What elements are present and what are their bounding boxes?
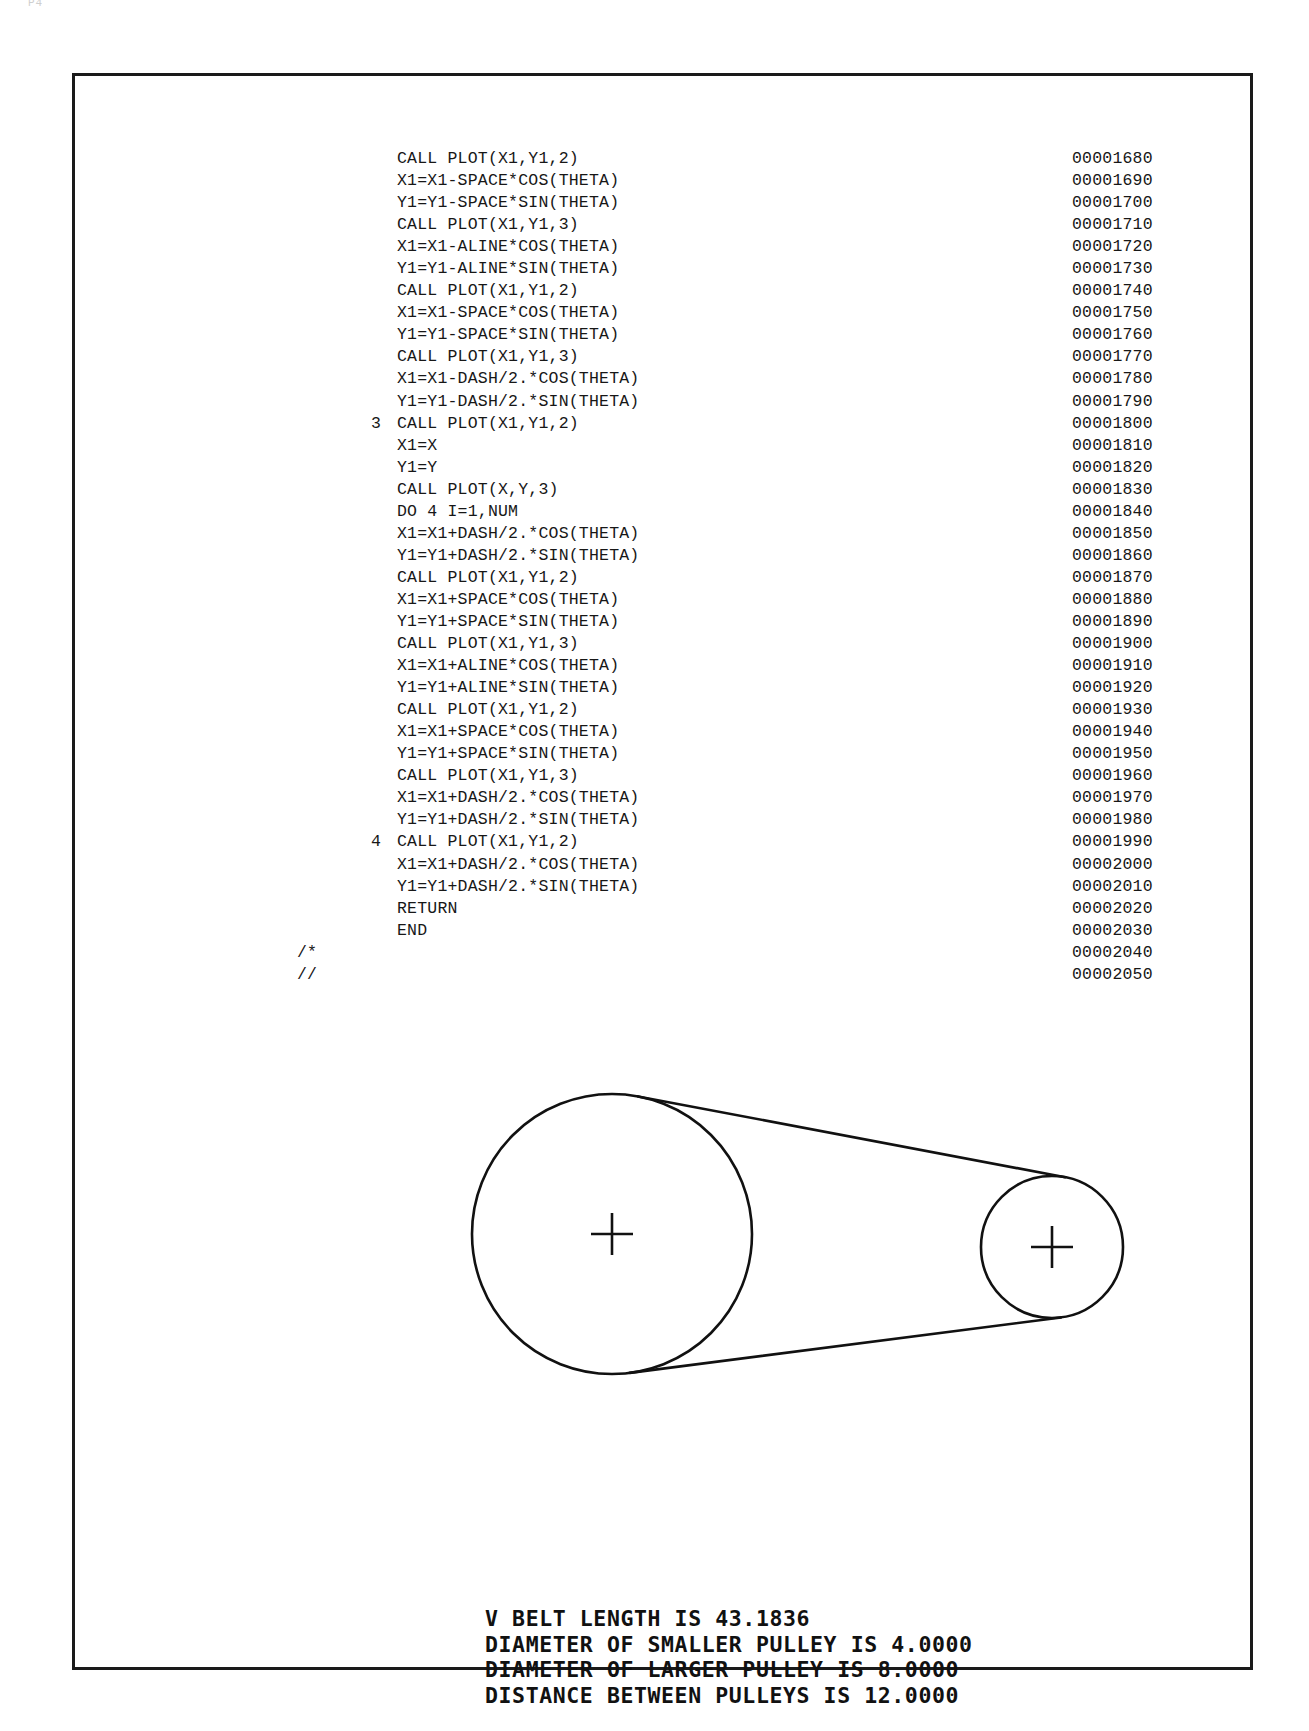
code-statement: Y1=Y1-ALINE*SIN(THETA) (397, 258, 619, 280)
code-statement: X1=X (397, 435, 437, 457)
code-line: X1=X1+DASH/2.*COS(THETA)00001970 (297, 787, 1247, 809)
sequence-number: 00002020 (1072, 898, 1153, 920)
small-pulley-circle (981, 1176, 1123, 1318)
sequence-number: 00001740 (1072, 280, 1153, 302)
plot-result-text-block: V BELT LENGTH IS 43.1836DIAMETER OF SMAL… (485, 1606, 1185, 1721)
sequence-number: 00001850 (1072, 523, 1153, 545)
fortran-code-listing: CALL PLOT(X1,Y1,2)00001680X1=X1-SPACE*CO… (297, 148, 1247, 986)
code-line: Y1=Y1+DASH/2.*SIN(THETA)00001860 (297, 545, 1247, 567)
printout-page-frame: CALL PLOT(X1,Y1,2)00001680X1=X1-SPACE*CO… (72, 73, 1253, 1670)
plot-result-line: V BELT LENGTH IS 43.1836 (485, 1606, 810, 1631)
sequence-number: 00001980 (1072, 809, 1153, 831)
code-statement: Y1=Y1-SPACE*SIN(THETA) (397, 324, 619, 346)
code-statement: CALL PLOT(X1,Y1,2) (397, 413, 579, 435)
code-statement: X1=X1-DASH/2.*COS(THETA) (397, 368, 639, 390)
code-statement: X1=X1+DASH/2.*COS(THETA) (397, 787, 639, 809)
sequence-number: 00001940 (1072, 721, 1153, 743)
sequence-number: 00002010 (1072, 876, 1153, 898)
code-statement: CALL PLOT(X1,Y1,2) (397, 699, 579, 721)
sequence-number: 00001750 (1072, 302, 1153, 324)
code-line: CALL PLOT(X1,Y1,3)00001710 (297, 214, 1247, 236)
plot-result-line: DIAMETER OF LARGER PULLEY IS 8.0000 (485, 1657, 959, 1682)
code-line: Y1=Y00001820 (297, 457, 1247, 479)
code-line: Y1=Y1+SPACE*SIN(THETA)00001950 (297, 743, 1247, 765)
code-line: CALL PLOT(X1,Y1,3)00001960 (297, 765, 1247, 787)
code-line: X1=X1-ALINE*COS(THETA)00001720 (297, 236, 1247, 258)
belt-tangent-line-2 (638, 1096, 1065, 1177)
sequence-number: 00001820 (1072, 457, 1153, 479)
code-line: X1=X1+ALINE*COS(THETA)00001910 (297, 655, 1247, 677)
sequence-number: 00001710 (1072, 214, 1153, 236)
sequence-number: 00001690 (1072, 170, 1153, 192)
sequence-number: 00002000 (1072, 854, 1153, 876)
code-line: CALL PLOT(X1,Y1,3)00001770 (297, 346, 1247, 368)
code-statement: Y1=Y1+SPACE*SIN(THETA) (397, 743, 619, 765)
code-statement: Y1=Y1+DASH/2.*SIN(THETA) (397, 545, 639, 567)
code-statement: X1=X1+DASH/2.*COS(THETA) (397, 854, 639, 876)
sequence-number: 00002040 (1072, 942, 1153, 964)
code-statement: Y1=Y1+DASH/2.*SIN(THETA) (397, 876, 639, 898)
sequence-number: 00001700 (1072, 192, 1153, 214)
code-line: END00002030 (297, 920, 1247, 942)
code-line: X1=X1+DASH/2.*COS(THETA)00001850 (297, 523, 1247, 545)
code-line: X1=X1-DASH/2.*COS(THETA)00001780 (297, 368, 1247, 390)
code-line: Y1=Y1-SPACE*SIN(THETA)00001700 (297, 192, 1247, 214)
sequence-number: 00001870 (1072, 567, 1153, 589)
code-statement: CALL PLOT(X1,Y1,3) (397, 214, 579, 236)
code-line: //00002050 (297, 964, 1247, 986)
statement-label: 3 (371, 413, 381, 435)
code-statement: X1=X1+ALINE*COS(THETA) (397, 655, 619, 677)
sequence-number: 00001770 (1072, 346, 1153, 368)
code-statement: RETURN (397, 898, 458, 920)
sequence-number: 00002050 (1072, 964, 1153, 986)
code-line: X1=X00001810 (297, 435, 1247, 457)
code-line: Y1=Y1-SPACE*SIN(THETA)00001760 (297, 324, 1247, 346)
code-statement: X1=X1-ALINE*COS(THETA) (397, 236, 619, 258)
code-statement: CALL PLOT(X,Y,3) (397, 479, 559, 501)
code-statement: CALL PLOT(X1,Y1,2) (397, 148, 579, 170)
sequence-number: 00001840 (1072, 501, 1153, 523)
code-line: CALL PLOT(X1,Y1,2)00001930 (297, 699, 1247, 721)
code-statement: CALL PLOT(X1,Y1,2) (397, 831, 579, 853)
code-statement: Y1=Y1-SPACE*SIN(THETA) (397, 192, 619, 214)
jcl-card: /* (297, 942, 317, 964)
code-line: CALL PLOT(X1,Y1,2)00001740 (297, 280, 1247, 302)
code-line: /*00002040 (297, 942, 1247, 964)
sequence-number: 00001900 (1072, 633, 1153, 655)
sequence-number: 00001990 (1072, 831, 1153, 853)
code-line: CALL PLOT(X1,Y1,2)00001680 (297, 148, 1247, 170)
code-line: Y1=Y1+ALINE*SIN(THETA)00001920 (297, 677, 1247, 699)
sequence-number: 00001760 (1072, 324, 1153, 346)
code-line: Y1=Y1+DASH/2.*SIN(THETA)00001980 (297, 809, 1247, 831)
code-line: CALL PLOT(X1,Y1,3)00001900 (297, 633, 1247, 655)
code-statement: CALL PLOT(X1,Y1,3) (397, 765, 579, 787)
sequence-number: 00001970 (1072, 787, 1153, 809)
sequence-number: 00001720 (1072, 236, 1153, 258)
code-statement: DO 4 I=1,NUM (397, 501, 518, 523)
sequence-number: 00001800 (1072, 413, 1153, 435)
code-line: Y1=Y1-ALINE*SIN(THETA)00001730 (297, 258, 1247, 280)
belt-tangent-line-1 (630, 1317, 1061, 1372)
large-pulley-circle (472, 1094, 752, 1374)
code-statement: END (397, 920, 427, 942)
code-statement: X1=X1+SPACE*COS(THETA) (397, 721, 619, 743)
code-statement: Y1=Y1+DASH/2.*SIN(THETA) (397, 809, 639, 831)
sequence-number: 00001960 (1072, 765, 1153, 787)
code-statement: X1=X1+SPACE*COS(THETA) (397, 589, 619, 611)
sequence-number: 00001790 (1072, 391, 1153, 413)
code-line: Y1=Y1+SPACE*SIN(THETA)00001890 (297, 611, 1247, 633)
sequence-number: 00001810 (1072, 435, 1153, 457)
sequence-number: 00001780 (1072, 368, 1153, 390)
code-statement: Y1=Y1-DASH/2.*SIN(THETA) (397, 391, 639, 413)
code-line: X1=X1+DASH/2.*COS(THETA)00002000 (297, 854, 1247, 876)
sequence-number: 00001950 (1072, 743, 1153, 765)
code-statement: Y1=Y1+SPACE*SIN(THETA) (397, 611, 619, 633)
code-statement: CALL PLOT(X1,Y1,2) (397, 280, 579, 302)
code-statement: CALL PLOT(X1,Y1,3) (397, 346, 579, 368)
scan-edge-artifact: P4 (28, 0, 74, 7)
sequence-number: 00001930 (1072, 699, 1153, 721)
code-line: X1=X1-SPACE*COS(THETA)00001750 (297, 302, 1247, 324)
code-statement: X1=X1-SPACE*COS(THETA) (397, 302, 619, 324)
code-statement: CALL PLOT(X1,Y1,3) (397, 633, 579, 655)
code-line: CALL PLOT(X,Y,3)00001830 (297, 479, 1247, 501)
